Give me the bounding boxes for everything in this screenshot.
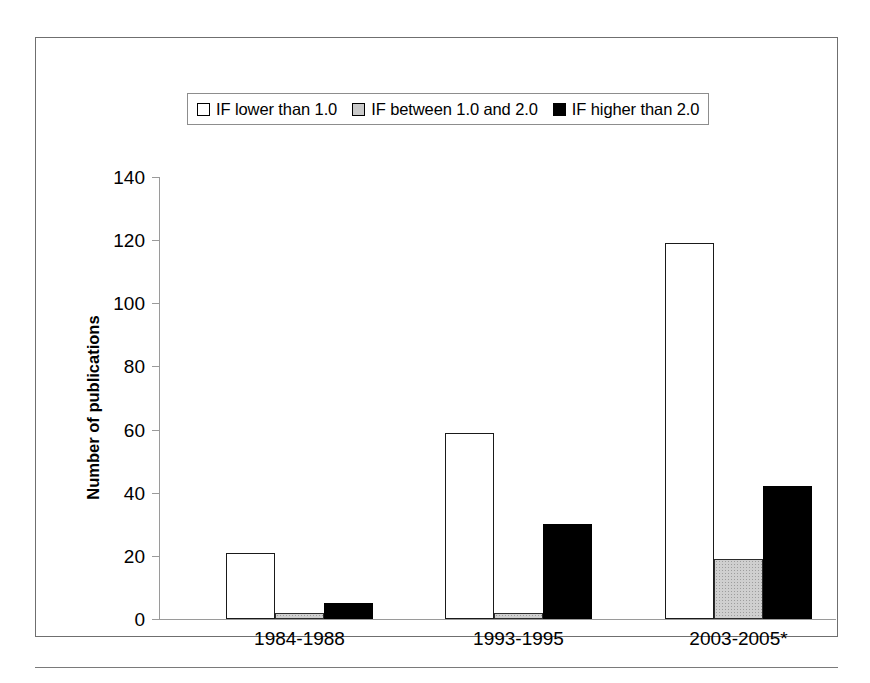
y-axis-tick-label: 0 xyxy=(25,610,145,629)
y-axis-tick xyxy=(152,619,159,620)
black-square-icon xyxy=(553,103,566,116)
y-axis-tick-label: 80 xyxy=(25,357,145,376)
bar-gray xyxy=(714,559,763,619)
x-axis-category-label: 1984-1988 xyxy=(196,629,403,648)
legend-label: IF higher than 2.0 xyxy=(572,101,700,118)
y-axis-tick-label: 60 xyxy=(25,420,145,439)
y-axis-tick xyxy=(152,556,159,557)
legend-label: IF lower than 1.0 xyxy=(216,101,337,118)
y-axis-tick xyxy=(152,430,159,431)
bar-black xyxy=(763,486,812,619)
figure-bottom-rule xyxy=(35,667,838,668)
y-axis-tick xyxy=(152,493,159,494)
bar-black xyxy=(543,524,592,619)
x-axis-line xyxy=(159,619,836,620)
chart-legend: IF lower than 1.0 IF between 1.0 and 2.0… xyxy=(187,93,709,125)
y-axis-tick xyxy=(152,303,159,304)
plot-area: 0204060801001201401984-19881993-19952003… xyxy=(159,177,836,619)
bar-white xyxy=(445,433,494,619)
x-axis-category-label: 2003-2005* xyxy=(635,629,842,648)
white-square-icon xyxy=(197,103,210,116)
bar-black xyxy=(324,603,373,619)
bar-gray xyxy=(494,613,543,619)
legend-item-if-higher-than-2: IF higher than 2.0 xyxy=(553,101,700,118)
chart-frame: IF lower than 1.0 IF between 1.0 and 2.0… xyxy=(35,37,838,637)
y-axis-tick-label: 120 xyxy=(25,231,145,250)
y-axis-tick xyxy=(152,240,159,241)
y-axis-tick-label: 100 xyxy=(25,294,145,313)
legend-item-if-lower-than-1: IF lower than 1.0 xyxy=(197,101,337,118)
legend-label: IF between 1.0 and 2.0 xyxy=(371,101,538,118)
bar-white xyxy=(665,243,714,619)
bar-gray xyxy=(275,613,324,619)
figure-container: IF lower than 1.0 IF between 1.0 and 2.0… xyxy=(0,0,870,683)
gray-square-icon xyxy=(352,103,365,116)
y-axis-tick-label: 20 xyxy=(25,546,145,565)
y-axis-tick xyxy=(152,177,159,178)
y-axis-tick-label: 40 xyxy=(25,483,145,502)
y-axis-tick xyxy=(152,366,159,367)
legend-item-if-between-1-and-2: IF between 1.0 and 2.0 xyxy=(352,101,538,118)
y-axis-line xyxy=(159,177,160,619)
y-axis-tick-label: 140 xyxy=(25,168,145,187)
bar-white xyxy=(226,553,275,619)
x-axis-category-label: 1993-1995 xyxy=(415,629,622,648)
